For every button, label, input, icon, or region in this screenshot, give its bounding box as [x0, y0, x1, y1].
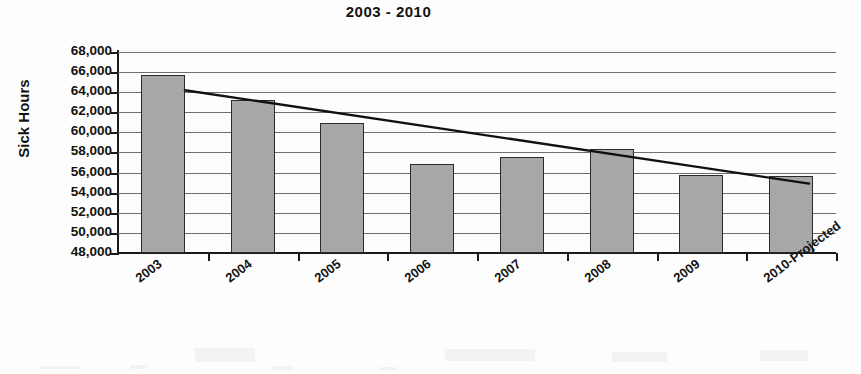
chart-title-text: 2003 - 2010: [346, 3, 432, 20]
y-tick-mark: [110, 132, 118, 134]
bar-2004: [231, 100, 275, 253]
chart-screenshot: 2003 - 2010 Sick Hours 68,000 66,000 64,…: [0, 0, 861, 374]
bar-2005: [320, 123, 364, 253]
x-tick-mark: [836, 253, 838, 261]
scan-artifact: [760, 350, 808, 361]
plot-area: [118, 52, 836, 253]
y-tick-label: 64,000: [46, 84, 112, 98]
x-tick-label: 2006: [402, 256, 434, 285]
y-tick-mark: [110, 72, 118, 74]
scan-artifact: [195, 348, 255, 362]
x-tick-label: 2008: [581, 256, 613, 285]
bar-2008: [590, 149, 634, 253]
x-tick-label: 2003: [132, 256, 164, 285]
y-tick-label: 62,000: [46, 104, 112, 118]
y-tick-mark: [110, 213, 118, 215]
gridline: [118, 213, 836, 214]
gridline: [118, 152, 836, 153]
x-tick-label: 2004: [222, 256, 254, 285]
y-tick-label: 54,000: [46, 185, 112, 199]
y-tick-label: 68,000: [46, 44, 112, 58]
x-tick-mark: [387, 253, 389, 261]
y-tick-label: 52,000: [46, 205, 112, 219]
y-tick-label: 60,000: [46, 124, 112, 138]
y-tick-mark: [110, 112, 118, 114]
y-axis-title: Sick Hours: [15, 69, 32, 169]
gridline: [118, 132, 836, 133]
gridline: [118, 193, 836, 194]
bar-2003: [141, 75, 185, 253]
gridline: [118, 72, 836, 73]
y-tick-label: 56,000: [46, 165, 112, 179]
gridline: [118, 233, 836, 234]
y-tick-mark: [110, 92, 118, 94]
scan-artifact: [612, 352, 667, 362]
y-tick-label: 58,000: [46, 144, 112, 158]
x-tick-mark: [477, 253, 479, 261]
scan-artifact: [272, 366, 294, 370]
y-tick-mark: [110, 173, 118, 175]
bar-2006: [410, 164, 454, 253]
y-tick-label: 48,000: [46, 245, 112, 259]
x-tick-mark: [208, 253, 210, 261]
y-tick-label: 66,000: [46, 64, 112, 78]
x-tick-mark: [298, 253, 300, 261]
gridline: [118, 173, 836, 174]
x-tick-mark: [746, 253, 748, 261]
x-tick-label: 2005: [312, 256, 344, 285]
x-tick-label: 2009: [671, 256, 703, 285]
x-tick-mark: [657, 253, 659, 261]
scan-artifact: [380, 367, 396, 370]
gridline: [118, 92, 836, 93]
x-tick-mark: [567, 253, 569, 261]
scan-artifact: [40, 366, 80, 369]
y-tick-mark: [110, 253, 118, 255]
scan-artifact: [445, 349, 535, 361]
chart-title: 2003 - 2010: [0, 3, 861, 20]
bar-2007: [500, 157, 544, 253]
bar-2009: [679, 175, 723, 253]
y-tick-mark: [110, 52, 118, 54]
y-tick-mark: [110, 193, 118, 195]
gridline: [118, 52, 836, 53]
y-tick-mark: [110, 233, 118, 235]
y-tick-mark: [110, 152, 118, 154]
scan-artifact: [130, 365, 148, 369]
gridline: [118, 112, 836, 113]
x-tick-label: 2007: [491, 256, 523, 285]
y-tick-label: 50,000: [46, 225, 112, 239]
